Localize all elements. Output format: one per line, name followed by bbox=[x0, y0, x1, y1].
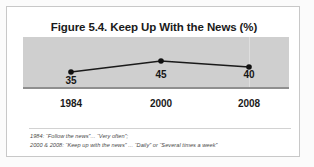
footnote-divider bbox=[29, 128, 291, 129]
data-label-2008: 40 bbox=[234, 69, 264, 80]
data-label-2000: 45 bbox=[146, 69, 176, 80]
x-tick-label-1984: 1984 bbox=[51, 98, 91, 109]
footnote-line-2: 2000 & 2008: “Keep up with the news” ...… bbox=[30, 141, 298, 150]
data-point-2000 bbox=[158, 58, 164, 64]
x-axis-line bbox=[23, 87, 289, 89]
data-point-1984 bbox=[68, 69, 74, 75]
footnote-block: 1984: “Follow the news”... “Very often”;… bbox=[30, 132, 298, 150]
page-title: Figure 5.4. Keep Up With the News (%) bbox=[7, 21, 301, 33]
x-tick-label-2008: 2008 bbox=[229, 98, 269, 109]
x-tick-label-2000: 2000 bbox=[141, 98, 181, 109]
data-label-1984: 35 bbox=[56, 75, 86, 86]
figure-container: Figure 5.4. Keep Up With the News (%) 35… bbox=[0, 0, 314, 167]
figure-frame: Figure 5.4. Keep Up With the News (%) 35… bbox=[6, 6, 300, 157]
footnote-line-1: 1984: “Follow the news”... “Very often”; bbox=[30, 132, 298, 141]
